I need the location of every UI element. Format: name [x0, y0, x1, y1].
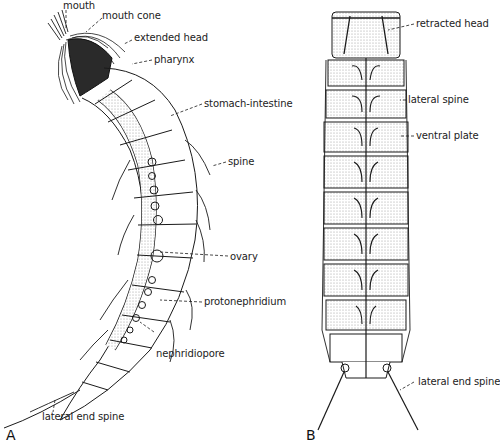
- label-lateral-end-spine-b: lateral end spine: [418, 376, 500, 387]
- organism-a: [4, 10, 210, 428]
- label-lateral-spine: lateral spine: [408, 94, 469, 105]
- label-nephridiopore: nephridiopore: [156, 348, 225, 359]
- label-lateral-end-spine-a: lateral end spine: [42, 411, 124, 422]
- label-mouth-cone: mouth cone: [102, 10, 161, 21]
- label-pharynx: pharynx: [154, 54, 194, 65]
- label-spine: spine: [228, 156, 254, 167]
- label-protonephridium: protonephridium: [204, 296, 286, 307]
- panel-letter-b: B: [306, 427, 316, 443]
- label-stomach-intestine: stomach-intestine: [204, 98, 292, 109]
- panel-letter-a: A: [6, 427, 16, 443]
- organism-b: [318, 12, 418, 430]
- label-ventral-plate: ventral plate: [416, 130, 479, 141]
- label-retracted-head: retracted head: [416, 18, 489, 29]
- label-mouth: mouth: [63, 0, 95, 11]
- label-ovary: ovary: [230, 251, 258, 262]
- label-extended-head: extended head: [134, 32, 208, 43]
